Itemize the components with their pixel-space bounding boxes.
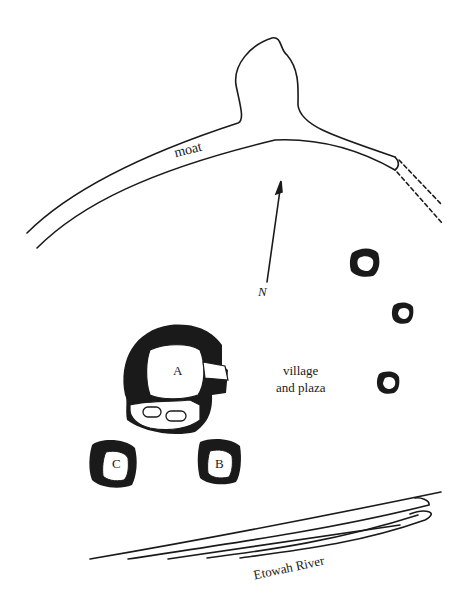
river-bank-upper: [90, 492, 441, 559]
north-arrow-shaft: [267, 183, 281, 282]
river-line-3: [207, 515, 418, 558]
river-line-1: [128, 498, 429, 559]
moat-outer-edge: [27, 38, 395, 233]
mound-a: [123, 325, 228, 435]
mound-b-label: B: [215, 456, 224, 472]
mound-a-label: A: [173, 363, 182, 379]
village-label-line2: and plaza: [276, 380, 325, 396]
small-mound-2: [392, 303, 413, 324]
moat-end: [395, 157, 398, 170]
map-drawing: [0, 0, 467, 603]
village-label-line1: village: [283, 363, 318, 379]
site-plan-map: moat N A B C village and plaza Etowah Ri…: [0, 0, 467, 603]
moat-inner-edge: [37, 140, 395, 248]
small-mound-3: [377, 372, 399, 394]
mound-c-label: C: [112, 456, 121, 472]
small-mound-1: [350, 249, 379, 277]
north-label: N: [258, 284, 267, 300]
north-arrow-head: [276, 181, 282, 194]
